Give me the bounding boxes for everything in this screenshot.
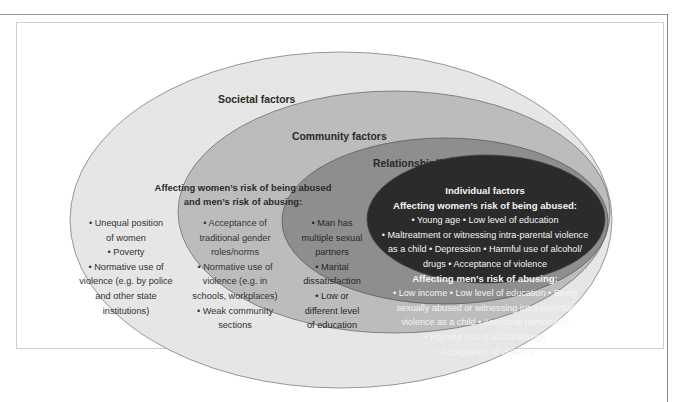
list-item: • Normative use of [183,260,287,275]
list-item: • Unequal position [74,216,178,231]
individual-factors-title: Individual factors [365,184,605,199]
list-item: • Acceptance of [183,216,287,231]
societal-factors-list: • Unequal position of women • Poverty • … [74,216,178,318]
list-item: traditional gender [183,231,287,246]
list-item: • Poverty [74,245,178,260]
list-item: and other state [74,289,178,304]
list-item: drugs • Acceptance of violence [365,257,605,272]
shared-risk-heading-line1: Affecting women’s risk of being abused [143,181,343,195]
societal-factors-title: Societal factors [218,94,295,105]
list-item: violence (e.g. by police [74,274,178,289]
list-item: sections [183,318,287,333]
community-factors-list: • Acceptance of traditional gender roles… [183,216,287,333]
list-item: sexually abused or witnessing intra-pare… [365,301,605,316]
list-item: violence as a child • Antisocial persona… [365,315,605,330]
list-item: violence (e.g. in [183,274,287,289]
list-item: • Acceptance of violence [365,345,605,360]
list-item: of women [74,231,178,246]
individual-factors-block: Individual factors Affecting women’s ris… [365,184,605,359]
women-risk-heading: Affecting women’s risk of being abused: [365,199,605,214]
list-item: • Young age • Low level of education [365,213,605,228]
list-item: • Low income • Low level of education • … [365,286,605,301]
list-item: schools, workplaces) [183,289,287,304]
men-risk-heading: Affecting men’s risk of abusing: [365,272,605,287]
shared-risk-heading-line2: and men’s risk of abusing: [143,195,343,209]
list-item: institutions) [74,304,178,319]
list-item: • Maltreatment or witnessing intra-paren… [365,228,605,243]
shared-risk-heading: Affecting women’s risk of being abused a… [143,181,343,208]
list-item: • Harmful use of alcohol/drugs [365,330,605,345]
list-item: as a child • Depression • Harmful use of… [365,242,605,257]
list-item: • Normative use of [74,260,178,275]
community-factors-title: Community factors [292,131,387,142]
list-item: • Weak community [183,304,287,319]
list-item: roles/norms [183,245,287,260]
relationship-factors-title: Relationship/family factors [373,158,506,169]
